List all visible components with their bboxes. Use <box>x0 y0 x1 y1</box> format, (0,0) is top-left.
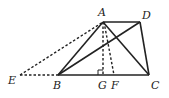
label-E: E <box>7 74 16 87</box>
geometry-diagram: A D E B G F C <box>0 0 169 98</box>
label-G: G <box>98 79 107 92</box>
label-F: F <box>110 79 119 92</box>
segment-BD <box>58 22 140 75</box>
segment-EA <box>20 22 103 75</box>
segment-AB <box>58 22 103 75</box>
label-C: C <box>151 79 160 92</box>
label-D: D <box>141 9 151 22</box>
label-B: B <box>52 79 61 92</box>
label-A: A <box>97 6 106 19</box>
